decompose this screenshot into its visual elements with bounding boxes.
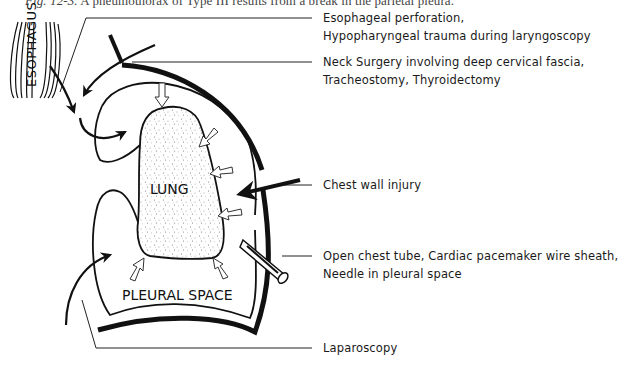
callout-chest-wall-injury: Chest wall injury xyxy=(323,176,421,194)
callout-line: Open chest tube, Cardiac pacemaker wire … xyxy=(323,247,618,265)
callout-line: Chest wall injury xyxy=(323,176,421,194)
lung-label: LUNG xyxy=(150,181,189,197)
callout-laparoscopy: Laparoscopy xyxy=(323,339,397,357)
callout-neck-surgery: Neck Surgery involving deep cervical fas… xyxy=(323,53,584,89)
callout-line: Esophageal perforation, xyxy=(323,9,591,27)
pleural-space-label: PLEURAL SPACE xyxy=(122,287,233,303)
callout-line: Hypopharyngeal trauma during laryngoscop… xyxy=(323,27,591,45)
callout-esophageal-perforation: Esophageal perforation, Hypopharyngeal t… xyxy=(323,9,591,45)
callout-line: Laparoscopy xyxy=(323,339,397,357)
callout-chest-tube: Open chest tube, Cardiac pacemaker wire … xyxy=(323,247,618,283)
callout-line: Tracheostomy, Thyroidectomy xyxy=(323,71,584,89)
callout-line: Neck Surgery involving deep cervical fas… xyxy=(323,53,584,71)
callout-line: Needle in pleural space xyxy=(323,265,618,283)
esophagus-label: ESOPHAGUS xyxy=(24,2,39,87)
